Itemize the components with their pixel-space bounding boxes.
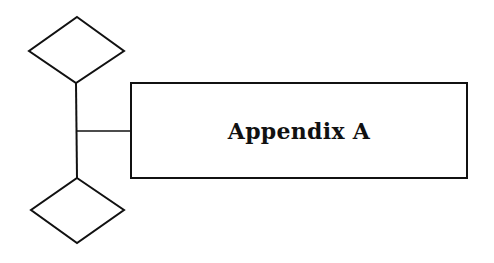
title-box: Appendix A [131, 83, 467, 178]
vertical-connector-line [76, 83, 77, 178]
appendix-title: Appendix A [228, 118, 370, 144]
bottom-diamond-shape [31, 178, 124, 243]
top-diamond-shape [29, 17, 124, 83]
